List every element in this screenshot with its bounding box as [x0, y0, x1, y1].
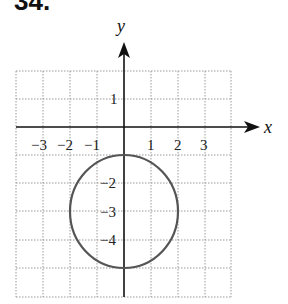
y-tick-labels: 1 −2 −3 −4 — [100, 91, 118, 248]
svg-text:−1: −1 — [84, 137, 100, 153]
svg-text:−2: −2 — [100, 175, 116, 191]
x-axis-label: x — [263, 117, 272, 137]
svg-text:−2: −2 — [57, 137, 73, 153]
svg-text:−3: −3 — [31, 137, 47, 153]
x-tick-labels: −3 −2 −1 1 2 3 — [31, 137, 208, 153]
y-axis-label: y — [115, 16, 125, 36]
svg-text:1: 1 — [147, 137, 155, 153]
svg-text:−3: −3 — [100, 204, 116, 220]
svg-text:1: 1 — [110, 91, 118, 107]
coordinate-plane: x y −3 −2 −1 1 2 3 1 −2 −3 −4 — [0, 0, 288, 304]
svg-text:3: 3 — [200, 137, 208, 153]
svg-text:−4: −4 — [100, 232, 116, 248]
svg-text:2: 2 — [174, 137, 182, 153]
x-axis: x — [16, 117, 272, 137]
